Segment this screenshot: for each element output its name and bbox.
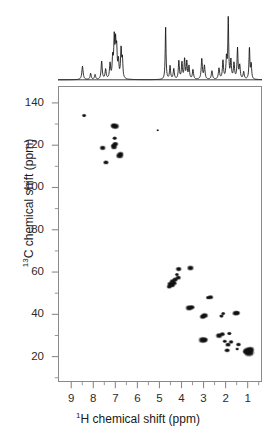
cross-peak <box>201 337 208 342</box>
x-tick-label: 2 <box>216 393 236 405</box>
cross-peak <box>235 311 241 315</box>
cross-peak <box>187 265 194 270</box>
y-tick-label: 80 <box>18 224 44 236</box>
x-tick-label: 1 <box>238 393 258 405</box>
x-tick-label: 5 <box>149 393 169 405</box>
cross-peak <box>156 129 159 131</box>
proton-1d-projection-panel <box>58 14 262 81</box>
cross-peak <box>224 348 230 352</box>
cross-peak <box>236 342 241 346</box>
cross-peak <box>175 275 181 279</box>
x-tick-label: 9 <box>61 393 81 405</box>
x-tick-label: 6 <box>127 393 147 405</box>
cross-peak <box>176 267 182 272</box>
y-axis-ticks <box>48 86 58 382</box>
cross-peak <box>189 305 195 310</box>
cross-peak <box>235 348 239 351</box>
x-tick-label: 3 <box>194 393 214 405</box>
cross-peak <box>201 313 208 318</box>
spectrum-plot-area <box>58 86 262 382</box>
y-tick-label: 60 <box>18 266 44 278</box>
x-axis-title-text: H chemical shift (ppm) <box>81 412 200 426</box>
cross-peak <box>222 340 227 343</box>
cross-peak <box>229 340 234 344</box>
x-axis-title: 1H chemical shift (ppm) <box>0 412 276 426</box>
cross-peak <box>82 114 87 117</box>
projection-trace-path <box>58 16 262 79</box>
y-tick-label: 20 <box>18 351 44 363</box>
cross-peak <box>103 160 109 164</box>
cross-peak <box>220 332 226 336</box>
proton-1d-projection-trace <box>58 14 262 81</box>
cross-peak <box>110 123 117 128</box>
cross-peak <box>111 144 116 148</box>
y-axis-title-text: C chemical shift (ppm) <box>22 139 36 258</box>
cross-peak <box>167 285 173 289</box>
cross-peak <box>227 332 232 336</box>
x-axis-ticks <box>58 382 262 392</box>
x-tick-label: 4 <box>172 393 192 405</box>
y-tick-label: 40 <box>18 308 44 320</box>
cross-peak-layer <box>59 87 261 381</box>
cross-peak <box>243 349 250 354</box>
cross-peak <box>175 273 179 276</box>
cross-peak <box>112 136 117 140</box>
y-tick-label: 140 <box>18 97 44 109</box>
y-tick-label: 100 <box>18 181 44 193</box>
x-tick-label: 8 <box>83 393 103 405</box>
cross-peak <box>206 296 211 300</box>
cross-peak <box>117 152 123 157</box>
x-tick-label: 7 <box>105 393 125 405</box>
cross-peak <box>221 312 225 315</box>
nmr-spectrum-figure: 1H chemical shift (ppm) 13C chemical shi… <box>0 0 276 441</box>
cross-peak <box>100 146 106 151</box>
y-tick-label: 120 <box>18 139 44 151</box>
